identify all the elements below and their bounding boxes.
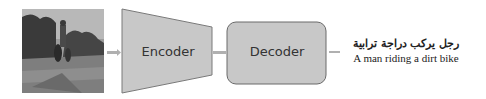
encoder-label: Encoder — [122, 44, 214, 59]
english-caption: A man riding a dirt bike — [336, 52, 476, 64]
arabic-caption: رجل يركب دراجة ترابية — [336, 37, 476, 50]
arrow-image-to-encoder — [107, 49, 121, 56]
decoder-label: Decoder — [227, 44, 327, 59]
arrow-encoder-to-decoder — [213, 51, 226, 54]
